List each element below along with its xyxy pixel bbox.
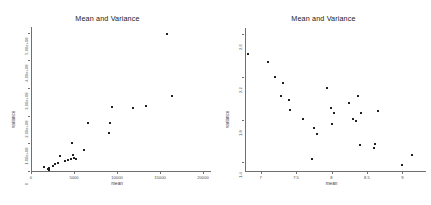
x-ticklabel-left-4: 20000 bbox=[188, 176, 218, 180]
y-ticklabel-right-0: 1.4 bbox=[238, 163, 242, 189]
x-ticklabel-right-0: 7 bbox=[246, 176, 276, 180]
data-point bbox=[57, 162, 59, 164]
x-ticklabel-left-2: 10000 bbox=[102, 176, 132, 180]
y-ticklabel-left-3: 3.00e+08 bbox=[24, 88, 28, 114]
x-ticklabel-left-3: 15000 bbox=[145, 176, 175, 180]
chart-panel-left: Mean and Variance mean variance 01.00e+0… bbox=[0, 0, 215, 205]
data-point bbox=[247, 53, 249, 55]
plot-area-left bbox=[31, 27, 203, 171]
x-ticklabel-right-2: 8 bbox=[317, 176, 347, 180]
y-axis-line-left bbox=[31, 27, 32, 172]
x-axis-label-left: mean bbox=[87, 182, 147, 187]
data-point bbox=[355, 120, 357, 122]
x-axis-line-right bbox=[245, 171, 426, 172]
y-ticklabel-left-5: 5.00e+08 bbox=[24, 33, 28, 59]
y-axis-label-right: variance bbox=[226, 99, 231, 139]
data-point bbox=[166, 33, 168, 35]
x-ticklabel-left-1: 5000 bbox=[59, 176, 89, 180]
data-point bbox=[288, 99, 290, 101]
y-axis-line-right bbox=[245, 28, 246, 172]
data-point bbox=[111, 106, 113, 108]
x-ticklabel-right-3: 8.5 bbox=[352, 176, 382, 180]
data-point bbox=[316, 133, 318, 135]
plot-area-right bbox=[245, 28, 418, 171]
x-axis-line-left bbox=[31, 171, 211, 172]
x-tick-left-3 bbox=[160, 172, 161, 175]
y-axis-label-left: variance bbox=[12, 99, 17, 139]
data-point bbox=[67, 159, 69, 161]
figure-canvas: Mean and Variance mean variance 01.00e+0… bbox=[0, 0, 431, 205]
data-point bbox=[70, 158, 72, 160]
y-ticklabel-left-2: 2.00e+08 bbox=[24, 116, 28, 142]
x-ticklabel-right-1: 7.5 bbox=[281, 176, 311, 180]
data-point bbox=[311, 158, 313, 160]
y-ticklabel-left-1: 1.00e+08 bbox=[24, 143, 28, 169]
x-tick-right-1 bbox=[296, 172, 297, 175]
x-tick-left-4 bbox=[203, 172, 204, 175]
data-point bbox=[72, 154, 74, 156]
x-tick-left-1 bbox=[74, 172, 75, 175]
y-ticklabel-left-4: 4.00e+08 bbox=[24, 60, 28, 86]
x-ticklabel-left-0: 0 bbox=[16, 176, 46, 180]
chart-title-right: Mean and Variance bbox=[216, 14, 431, 23]
data-point bbox=[331, 123, 333, 125]
chart-title-left: Mean and Variance bbox=[0, 14, 215, 23]
x-tick-left-0 bbox=[31, 172, 32, 175]
x-tick-left-2 bbox=[117, 172, 118, 175]
data-point bbox=[75, 158, 77, 160]
x-tick-right-0 bbox=[261, 172, 262, 175]
x-axis-label-right: mean bbox=[302, 182, 362, 187]
chart-panel-right: Mean and Variance mean variance 1.41.82.… bbox=[216, 0, 431, 205]
data-point bbox=[64, 160, 66, 162]
x-tick-right-3 bbox=[367, 172, 368, 175]
data-point bbox=[348, 102, 350, 104]
x-tick-right-4 bbox=[402, 172, 403, 175]
x-ticklabel-right-4: 9 bbox=[387, 176, 417, 180]
y-ticklabel-right-2: 2.2 bbox=[238, 77, 242, 103]
data-point bbox=[330, 107, 332, 109]
data-point bbox=[352, 118, 354, 120]
y-ticklabel-right-3: 2.6 bbox=[238, 34, 242, 60]
y-ticklabel-right-1: 1.8 bbox=[238, 120, 242, 146]
x-tick-right-2 bbox=[332, 172, 333, 175]
